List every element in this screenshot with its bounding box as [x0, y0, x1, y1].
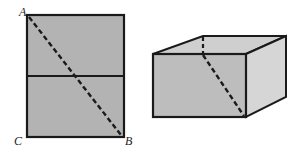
unfolded-rectangle: A C B	[14, 5, 133, 148]
label-b: B	[125, 134, 133, 148]
label-a: A	[18, 5, 27, 19]
box-front-face	[153, 54, 246, 117]
label-c: C	[14, 134, 23, 148]
folded-box	[153, 36, 286, 117]
diagram-canvas: A C B	[0, 0, 306, 151]
